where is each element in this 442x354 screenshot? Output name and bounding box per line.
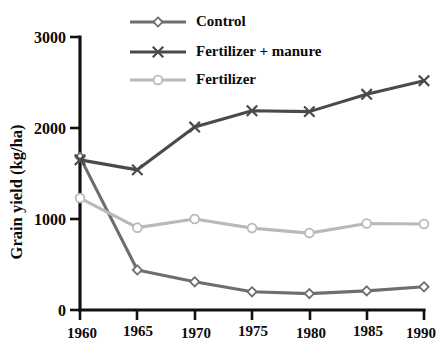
x-tick-label-1990: 1990 (406, 325, 436, 341)
data-point-circle (362, 219, 371, 228)
legend-label-fertilizer: Fertilizer (196, 71, 256, 87)
data-point-diamond (419, 282, 428, 291)
data-point-circle (420, 220, 429, 229)
data-point-circle (133, 223, 142, 232)
data-point-circle (190, 215, 199, 224)
legend-label-control: Control (196, 13, 246, 29)
data-point-diamond (153, 17, 162, 26)
chart-container: Grain yield (kg/ha) 3000 2000 1000 0 196… (0, 0, 442, 354)
data-point-circle (76, 194, 85, 203)
series-fertilizer (76, 194, 429, 238)
data-point-diamond (362, 286, 371, 295)
data-point-diamond (247, 287, 256, 296)
y-tick-label-2000: 2000 (34, 120, 66, 137)
legend-item-fertilizer[interactable]: Fertilizer (130, 71, 256, 87)
legend-item-fertilizer-manure[interactable]: Fertilizer + manure (130, 43, 322, 59)
x-tick-label-1960: 1960 (67, 325, 97, 341)
x-tick-label-1980: 1980 (296, 325, 326, 341)
x-tick-label-1975: 1975 (238, 323, 268, 339)
data-point-diamond (190, 277, 199, 286)
series-fertilizer-manure (75, 75, 429, 175)
data-point-circle (154, 76, 163, 85)
data-point-circle (248, 224, 257, 233)
legend-marker-diamond (153, 17, 162, 26)
y-tick-label-1000: 1000 (34, 211, 66, 228)
y-tick-label-0: 0 (58, 302, 66, 319)
line-chart: Grain yield (kg/ha) 3000 2000 1000 0 196… (0, 0, 442, 354)
legend-marker-circle (154, 76, 163, 85)
y-axis-title: Grain yield (kg/ha) (7, 125, 26, 260)
x-tick-label-1970: 1970 (181, 325, 211, 341)
x-tick-label-1985: 1985 (353, 323, 383, 339)
x-tick-label-1965: 1965 (123, 323, 153, 339)
x-axis-ticks: 1960 1965 1970 1975 1980 1985 1990 (67, 310, 436, 341)
legend-item-control[interactable]: Control (130, 13, 246, 29)
y-tick-label-3000: 3000 (34, 29, 66, 46)
y-axis-ticks: 3000 2000 1000 0 (34, 29, 80, 319)
chart-legend: Control Fertilizer + manure Fertilizer (130, 13, 322, 87)
data-point-circle (305, 229, 314, 238)
data-point-diamond (305, 289, 314, 298)
legend-label-fertilizer-manure: Fertilizer + manure (196, 43, 322, 59)
series-layer (75, 75, 429, 298)
